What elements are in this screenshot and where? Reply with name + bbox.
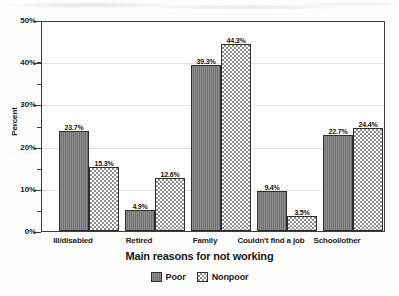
scan-artifact-top: [0, 0, 399, 14]
y-tick-label-50: 50%: [0, 16, 36, 25]
bar-poor-retired: 4.9%: [125, 210, 155, 231]
bar-nonpoor-couldnt-find-job: 3.5%: [287, 216, 317, 231]
bar-value-nonpoor-ill-disabled: 15.3%: [95, 160, 114, 167]
y-tick-label-20: 20%: [0, 143, 36, 152]
bar-value-poor-retired: 4.9%: [132, 203, 147, 210]
bar-poor-school-other: 22.7%: [323, 135, 353, 231]
bar-value-nonpoor-family: 44.3%: [227, 37, 246, 44]
bar-chart: Percent 50% 40% 30% 20% 10% 0% 23.7% 15.…: [0, 0, 399, 296]
bar-nonpoor-ill-disabled: 15.3%: [89, 167, 119, 232]
bar-value-nonpoor-school-other: 24.4%: [359, 121, 378, 128]
bar-value-poor-couldnt-find-job: 9.4%: [264, 184, 279, 191]
bar-nonpoor-family: 44.3%: [221, 44, 251, 231]
bar-value-poor-family: 39.3%: [197, 58, 216, 65]
x-category-label-school-other: School/other: [292, 236, 382, 245]
bar-nonpoor-school-other: 24.4%: [353, 128, 383, 231]
y-tick-label-40: 40%: [0, 58, 36, 67]
plot-area: 23.7% 15.3% 4.9% 12.6% 39.3% 44.3% 9.4% …: [41, 21, 385, 232]
legend-label-nonpoor: Nonpoor: [212, 272, 249, 282]
y-tick-label-30: 30%: [0, 100, 36, 109]
bar-poor-couldnt-find-job: 9.4%: [257, 191, 287, 231]
bar-value-nonpoor-retired: 12.6%: [161, 171, 180, 178]
y-tick-label-10: 10%: [0, 185, 36, 194]
bar-value-poor-school-other: 22.7%: [329, 128, 348, 135]
bar-value-poor-ill-disabled: 23.7%: [65, 124, 84, 131]
bar-nonpoor-retired: 12.6%: [155, 178, 185, 231]
bar-poor-ill-disabled: 23.7%: [59, 131, 89, 231]
legend-swatch-poor-icon: [151, 272, 162, 282]
legend-swatch-nonpoor-icon: [197, 272, 208, 282]
legend-item-nonpoor: Nonpoor: [197, 272, 249, 282]
y-tick-label-0: 0%: [0, 227, 36, 236]
legend-item-poor: Poor: [151, 272, 186, 282]
bar-value-nonpoor-couldnt-find-job: 3.5%: [294, 209, 309, 216]
x-axis-title: Main reasons for not working: [0, 250, 399, 262]
bar-poor-family: 39.3%: [191, 65, 221, 231]
chart-legend: Poor Nonpoor: [0, 272, 399, 282]
legend-label-poor: Poor: [166, 272, 186, 282]
